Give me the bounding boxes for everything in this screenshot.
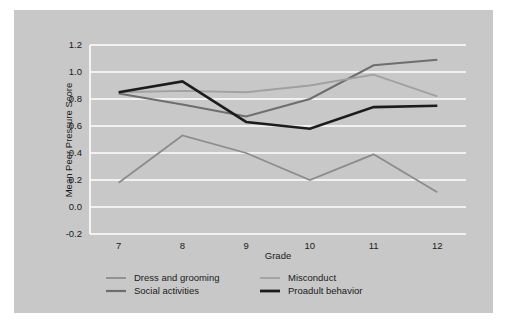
figure-panel: -0.20.00.20.40.60.81.01.2 789101112 Grad… (14, 10, 493, 313)
x-axis-tick-label: 10 (305, 240, 316, 251)
legend-label: Dress and grooming (134, 272, 220, 283)
y-axis-title: Mean Peer Pressure Score (63, 83, 74, 198)
plot-area-background (90, 45, 466, 234)
y-axis-tick-label: 1.2 (69, 39, 82, 50)
x-axis-tick-label: 12 (432, 240, 443, 251)
x-axis-tick-label: 7 (116, 240, 121, 251)
x-axis-tick-label: 8 (180, 240, 185, 251)
x-axis-tick-label: 9 (243, 240, 248, 251)
legend-label: Misconduct (288, 272, 336, 283)
legend-label: Proadult behavior (288, 285, 362, 296)
y-axis-tick-label: -0.2 (66, 228, 82, 239)
x-axis-title: Grade (265, 250, 291, 261)
y-axis-tick-label: 0.0 (69, 201, 82, 212)
chart-legend: Dress and groomingSocial activitiesMisco… (106, 272, 362, 296)
x-axis-tick-label: 11 (369, 240, 379, 251)
line-chart: -0.20.00.20.40.60.81.01.2 789101112 Grad… (14, 10, 493, 313)
legend-label: Social activities (134, 285, 199, 296)
y-axis-tick-label: 1.0 (69, 66, 82, 77)
